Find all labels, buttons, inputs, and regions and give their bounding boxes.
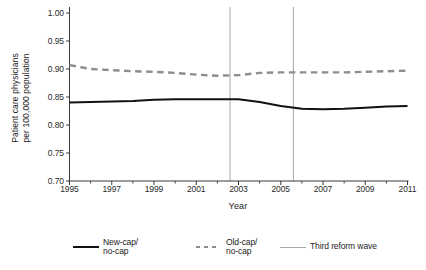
x-tick-label-3: 2001 <box>187 184 206 194</box>
x-tick-label-0: 1995 <box>60 184 79 194</box>
x-tick-label-2: 1999 <box>145 184 164 194</box>
x-tick-label-8: 2011 <box>399 184 417 194</box>
legend-label-3: Third reform wave <box>310 242 377 252</box>
legend-label-line2: no-cap <box>226 247 257 257</box>
x-axis-title: Year <box>69 201 407 211</box>
legend-label-2: Old-cap/no-cap <box>226 238 257 257</box>
legend-label-line1: Third reform wave <box>310 241 377 251</box>
legend-entry-1[interactable]: New-cap/no-cap <box>73 232 138 262</box>
x-tick-label-6: 2007 <box>314 184 333 194</box>
series-line-2 <box>70 65 408 76</box>
y-tick-label-1: 0.95 <box>38 36 64 46</box>
legend-entry-3[interactable]: Third reform wave <box>280 232 377 262</box>
y-tick-label-5: 0.75 <box>38 148 64 158</box>
x-tick-label-5: 2005 <box>271 184 290 194</box>
legend-label-line1: Old-cap/ <box>226 237 257 247</box>
x-axis-tick-labels: 199519971999200120032005200720092011 <box>0 184 426 200</box>
legend-swatch-dashed-icon <box>196 242 222 252</box>
y-tick-label-2: 0.90 <box>38 64 64 74</box>
y-tick-label-4: 0.80 <box>38 120 64 130</box>
legend-label-line1: New-cap/ <box>103 237 138 247</box>
y-tick-label-0: 1.00 <box>38 8 64 18</box>
series-line-1 <box>70 99 408 109</box>
y-axis-tick-labels: 1.000.950.900.850.800.750.70 <box>36 0 64 195</box>
legend-swatch-thin-icon <box>280 242 306 252</box>
legend-entry-2[interactable]: Old-cap/no-cap <box>196 232 257 262</box>
x-tick-label-1: 1997 <box>102 184 121 194</box>
chart-legend: New-cap/no-capOld-cap/no-capThird reform… <box>0 232 426 270</box>
x-tick-label-7: 2009 <box>356 184 375 194</box>
legend-label-1: New-cap/no-cap <box>103 238 138 257</box>
y-axis-title-line2: per 100,000 population <box>21 53 32 143</box>
y-tick-label-3: 0.85 <box>38 92 64 102</box>
x-tick-label-4: 2003 <box>229 184 248 194</box>
y-axis-title-line1: Patient care physicians <box>10 53 20 143</box>
chart-figure: Patient care physicians per 100,000 popu… <box>0 0 426 270</box>
legend-swatch-solid-icon <box>73 242 99 252</box>
legend-label-line2: no-cap <box>103 247 138 257</box>
